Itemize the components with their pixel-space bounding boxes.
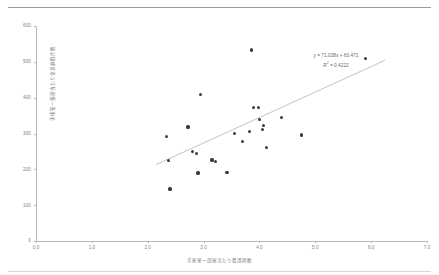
x-axis-tick-label: 1.0 — [82, 245, 102, 250]
trendline-equation-text: y = 71.038x + 60.471 — [296, 52, 376, 60]
y-axis-tick-mark — [34, 134, 36, 135]
y-axis-title: 手術室一部屋当たり全身麻酔件数 — [50, 28, 56, 138]
y-axis-tick-label: 0 — [9, 238, 31, 243]
x-axis-tick-mark — [204, 241, 205, 243]
scatter-point — [252, 106, 255, 109]
scatter-point — [280, 116, 283, 119]
scatter-point — [262, 124, 265, 127]
y-axis-tick-mark — [34, 169, 36, 170]
x-axis-tick-label: 7.0 — [417, 245, 437, 250]
x-axis-tick-label: 6.0 — [361, 245, 381, 250]
x-axis-tick-label: 3.0 — [194, 245, 214, 250]
scatter-point — [168, 187, 171, 190]
x-axis-tick-mark — [371, 241, 372, 243]
scatter-point — [233, 132, 236, 135]
x-axis-tick-mark — [427, 241, 428, 243]
scatter-point — [191, 150, 194, 153]
scatter-point — [258, 118, 261, 121]
scatter-point — [265, 146, 268, 149]
scatter-point — [186, 125, 189, 128]
x-axis-tick-mark — [259, 241, 260, 243]
x-axis-line — [36, 241, 427, 242]
scatter-point — [195, 152, 198, 155]
y-axis-tick-mark — [34, 26, 36, 27]
scatter-point — [241, 140, 244, 143]
x-axis-tick-mark — [92, 241, 93, 243]
x-axis-tick-label: 4.0 — [249, 245, 269, 250]
scatter-chart-figure: 0100200300400500600 0.01.02.03.04.05.06.… — [0, 0, 439, 275]
scatter-point — [210, 158, 213, 161]
r2-value: = 0.4222 — [329, 62, 349, 67]
top-divider-rule — [8, 7, 431, 8]
y-axis-tick-label: 500 — [9, 59, 31, 64]
y-axis-tick-mark — [34, 62, 36, 63]
scatter-point — [300, 133, 303, 136]
y-axis-tick-mark — [34, 205, 36, 206]
y-axis-line — [36, 26, 37, 241]
x-axis-tick-label: 0.0 — [26, 245, 46, 250]
y-axis-tick-label: 100 — [9, 203, 31, 208]
y-axis-tick-label: 400 — [9, 95, 31, 100]
scatter-point — [257, 106, 260, 109]
x-axis-tick-label: 5.0 — [305, 245, 325, 250]
y-axis-tick-mark — [34, 98, 36, 99]
x-axis-tick-mark — [36, 241, 37, 243]
x-axis-title: 手術室一部屋当たり看護師数 — [0, 258, 439, 264]
scatter-point — [261, 128, 264, 131]
bottom-divider-rule — [8, 271, 431, 272]
y-axis-tick-label: 200 — [9, 167, 31, 172]
x-axis-tick-label: 2.0 — [138, 245, 158, 250]
scatter-point — [167, 159, 170, 162]
trendline-r2-text: R2 = 0.4222 — [296, 60, 376, 69]
scatter-point — [225, 171, 228, 174]
scatter-point — [165, 135, 168, 138]
scatter-point — [199, 93, 202, 96]
scatter-point — [214, 160, 217, 163]
scatter-point — [248, 130, 251, 133]
y-axis-tick-label: 600 — [9, 23, 31, 28]
scatter-point — [196, 171, 199, 174]
x-axis-tick-mark — [315, 241, 316, 243]
y-axis-tick-label: 300 — [9, 131, 31, 136]
x-axis-tick-mark — [148, 241, 149, 243]
scatter-point — [250, 48, 253, 51]
trendline-equation-annotation: y = 71.038x + 60.471 R2 = 0.4222 — [296, 52, 376, 69]
